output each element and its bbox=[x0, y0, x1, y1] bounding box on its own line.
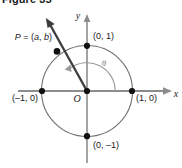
label-p-close: ) bbox=[49, 32, 52, 42]
unit-circle-diagram: y x O θ (0, 1) (1, 0) (–1, 0) (0, –1) P … bbox=[0, 0, 182, 168]
terminal-ray bbox=[46, 18, 87, 91]
point-left-intercept bbox=[39, 88, 45, 94]
point-right-intercept bbox=[129, 88, 135, 94]
figure-container: Figure 35 y x bbox=[0, 0, 182, 168]
y-axis-label: y bbox=[75, 10, 81, 21]
point-terminal-p bbox=[54, 48, 61, 55]
label-point-bottom: (0, –1) bbox=[93, 140, 119, 150]
label-point-p: P = (a, b) bbox=[15, 32, 52, 42]
label-point-right: (1, 0) bbox=[136, 93, 157, 103]
angle-arc bbox=[65, 63, 116, 91]
point-top-intercept bbox=[84, 43, 90, 49]
point-bottom-intercept bbox=[84, 133, 90, 139]
theta-label: θ bbox=[102, 58, 107, 68]
label-point-top: (0, 1) bbox=[93, 31, 114, 41]
origin-label: O bbox=[73, 93, 80, 104]
label-point-left: (–1, 0) bbox=[12, 93, 38, 103]
point-origin bbox=[84, 88, 90, 94]
x-axis-label: x bbox=[173, 88, 179, 99]
label-p-eq: = ( bbox=[21, 32, 34, 42]
